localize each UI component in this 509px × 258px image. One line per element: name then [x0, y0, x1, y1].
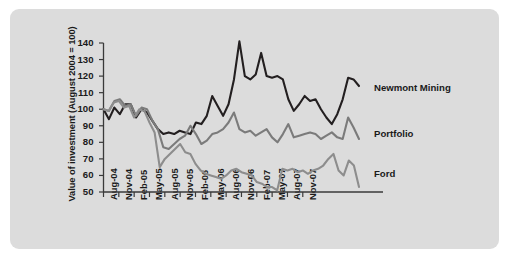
- y-axis-ticks: [99, 43, 104, 192]
- chart-root: Value of investment (August 2004 = 100) …: [10, 9, 499, 249]
- plot-area: [10, 9, 499, 249]
- chart-panel: Value of investment (August 2004 = 100) …: [10, 9, 499, 249]
- series-line-ford: [104, 101, 360, 190]
- x-axis-ticks: [104, 192, 303, 197]
- series-line-newmont-mining: [104, 41, 360, 134]
